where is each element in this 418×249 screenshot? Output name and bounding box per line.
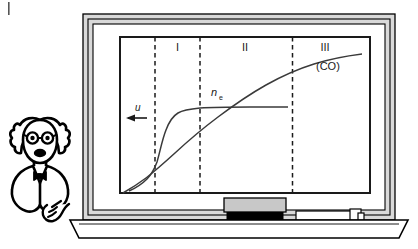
electron-density-label-text: n: [211, 86, 217, 98]
region-label-2: II: [242, 41, 248, 53]
scene-root: I II III n e (CO) u: [0, 0, 418, 249]
marker-tray: [70, 220, 408, 238]
crop-tick-mark: [8, 2, 10, 15]
eraser-top: [224, 198, 286, 212]
marker-tip: [358, 213, 364, 220]
co-concentration-label: (CO): [316, 60, 340, 72]
plot-area: I II III n e (CO) u: [120, 37, 370, 193]
marker-body: [296, 211, 356, 220]
mouth: [35, 150, 46, 157]
electron-density-label-subscript: e: [219, 94, 223, 101]
flow-velocity-label: u: [135, 102, 141, 113]
region-label-1: I: [176, 41, 179, 53]
scene-svg: I II III n e (CO) u: [0, 0, 418, 249]
bow-tie: [34, 172, 46, 180]
tray-body: [70, 220, 408, 238]
region-label-3: III: [320, 41, 329, 53]
